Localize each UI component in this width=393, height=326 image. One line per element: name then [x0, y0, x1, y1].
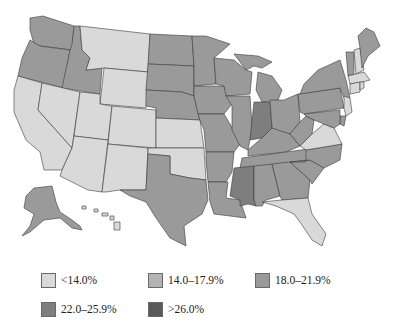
legend-swatch: [148, 273, 163, 288]
state-AK[interactable]: [22, 186, 82, 236]
legend-label: 14.0–17.9%: [168, 274, 224, 286]
state-NM[interactable]: [102, 144, 148, 192]
legend-swatch: [41, 302, 56, 317]
us-choropleth-map: [0, 0, 393, 250]
state-CO[interactable]: [108, 106, 156, 148]
legend-label: 18.0–21.9%: [275, 274, 331, 286]
state-ME[interactable]: [358, 28, 380, 68]
state-AR[interactable]: [206, 152, 234, 182]
legend-item-14-17: 14.0–17.9%: [148, 271, 224, 289]
legend-item-gt26: >26.0%: [148, 300, 204, 318]
state-CT[interactable]: [350, 82, 360, 94]
state-HI[interactable]: [82, 206, 120, 230]
state-ND[interactable]: [148, 34, 194, 66]
legend-item-22-25: 22.0–25.9%: [41, 300, 117, 318]
state-FL[interactable]: [262, 198, 326, 246]
legend-label: >26.0%: [168, 303, 204, 315]
state-KS[interactable]: [156, 118, 204, 148]
legend-label: <14.0%: [61, 274, 97, 286]
state-WY[interactable]: [100, 68, 148, 108]
legend-item-lt14: <14.0%: [41, 271, 97, 289]
legend-item-18-21: 18.0–21.9%: [255, 271, 331, 289]
legend-label: 22.0–25.9%: [61, 303, 117, 315]
state-DE[interactable]: [340, 116, 346, 126]
state-RI[interactable]: [360, 82, 364, 90]
legend-swatch: [41, 273, 56, 288]
state-NJ[interactable]: [344, 96, 352, 116]
legend-swatch: [255, 273, 270, 288]
legend-swatch: [148, 302, 163, 317]
state-VT[interactable]: [346, 52, 354, 76]
state-MT[interactable]: [80, 26, 150, 72]
legend: <14.0% 14.0–17.9% 18.0–21.9% 22.0–25.9% …: [0, 250, 393, 326]
